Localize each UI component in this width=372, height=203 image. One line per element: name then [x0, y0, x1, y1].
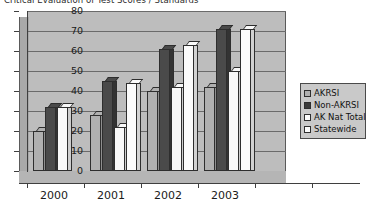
y-tick-mark — [14, 151, 19, 152]
bar — [204, 83, 215, 171]
x-tick-mark — [27, 183, 28, 188]
bar — [126, 79, 137, 171]
legend-item-label: Non-AKRSI — [314, 100, 359, 110]
legend-item[interactable]: Statewide — [304, 123, 362, 135]
legend-item-label: AKRSI — [314, 88, 339, 98]
bar-side-face — [194, 45, 198, 171]
y-tick-label: 50 — [59, 65, 83, 76]
x-tick-mark — [198, 183, 199, 188]
bar-front-face — [171, 87, 182, 171]
y-tick-label: 70 — [59, 25, 83, 36]
y-tick-label: 40 — [59, 85, 83, 96]
y-tick-mark — [14, 91, 19, 92]
bar — [45, 103, 56, 171]
plot-area — [19, 11, 286, 183]
bar — [171, 83, 182, 171]
x-tick-label: 2001 — [88, 189, 134, 202]
y-tick-label: 0 — [59, 165, 83, 176]
bar-front-face — [204, 87, 215, 171]
legend-item-label: Statewide — [314, 124, 356, 134]
bar-front-face — [126, 83, 137, 171]
legend-swatch-icon — [304, 114, 311, 121]
x-axis — [19, 183, 360, 184]
bar-front-face — [57, 107, 68, 171]
bar — [33, 127, 44, 171]
y-tick-label: 30 — [59, 105, 83, 116]
chart-title: Critical Evaluation of Test Scores / Sta… — [4, 0, 264, 5]
bar-front-face — [33, 131, 44, 171]
bar — [240, 25, 251, 171]
bar-front-face — [102, 81, 113, 171]
bar-chart: Critical Evaluation of Test Scores / Sta… — [0, 0, 372, 203]
y-tick-mark — [14, 11, 19, 12]
bar-front-face — [90, 115, 101, 171]
y-tick-mark — [14, 131, 19, 132]
y-tick-label: 10 — [59, 145, 83, 156]
bar-front-face — [183, 45, 194, 171]
y-axis — [27, 11, 28, 172]
legend-swatch-icon — [304, 126, 311, 133]
legend-swatch-icon — [304, 90, 311, 97]
bar-front-face — [45, 107, 56, 171]
bar-side-face — [68, 107, 72, 171]
bar — [147, 87, 158, 171]
y-tick-mark — [14, 71, 19, 72]
bar-side-face — [251, 29, 255, 171]
y-tick-mark — [14, 51, 19, 52]
bar-front-face — [228, 71, 239, 171]
bar — [90, 111, 101, 171]
bar-front-face — [159, 49, 170, 171]
y-tick-label: 20 — [59, 125, 83, 136]
bar — [102, 77, 113, 171]
bar-front-face — [147, 91, 158, 171]
x-tick-mark — [255, 183, 256, 188]
bar-front-face — [216, 29, 227, 171]
y-tick-mark — [14, 31, 19, 32]
legend-item-label: AK Nat Total — [314, 112, 366, 122]
x-tick-mark — [141, 183, 142, 188]
y-tick-label: 80 — [59, 5, 83, 16]
y-tick-mark — [14, 171, 19, 172]
x-tick-label: 2002 — [145, 189, 191, 202]
x-tick-label: 2003 — [202, 189, 248, 202]
chart-legend: AKRSINon-AKRSIAK Nat TotalStatewide — [300, 83, 366, 139]
bar — [183, 41, 194, 171]
bar-front-face — [240, 29, 251, 171]
x-tick-label: 2000 — [31, 189, 77, 202]
legend-item[interactable]: AKRSI — [304, 87, 362, 99]
y-tick-mark — [14, 111, 19, 112]
bar — [228, 67, 239, 171]
x-tick-mark — [312, 183, 313, 188]
bar — [114, 123, 125, 171]
bar-front-face — [114, 127, 125, 171]
bar — [159, 45, 170, 171]
y-tick-label: 60 — [59, 45, 83, 56]
x-tick-mark — [84, 183, 85, 188]
legend-item[interactable]: Non-AKRSI — [304, 99, 362, 111]
bar — [216, 25, 227, 171]
bar-side-face — [137, 83, 141, 171]
legend-swatch-icon — [304, 102, 311, 109]
legend-item[interactable]: AK Nat Total — [304, 111, 362, 123]
